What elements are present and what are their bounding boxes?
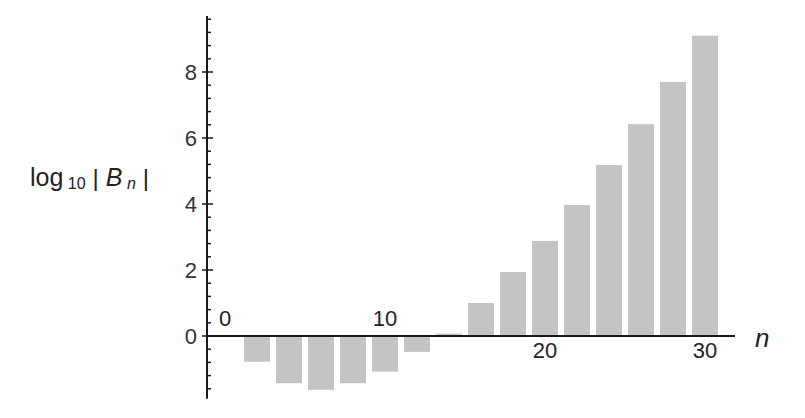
y-label-abs-right: |	[143, 164, 149, 191]
y-label-abs-left: |	[93, 164, 99, 191]
y-tick-label: 8	[185, 60, 197, 85]
x-tick-label: 10	[373, 306, 397, 331]
bar-n-20	[532, 241, 558, 336]
bar-n-10	[372, 337, 398, 372]
bar-n-2	[244, 337, 270, 362]
bar-n-18	[500, 272, 526, 336]
bar-n-26	[628, 124, 654, 336]
bar-n-12	[404, 337, 430, 352]
y-label-base: 10	[63, 175, 85, 192]
y-axis-label: log 10 | B n |	[30, 163, 149, 193]
y-label-log: log	[30, 163, 63, 191]
bar-n-24	[596, 165, 622, 336]
x-axis-label: n	[755, 323, 769, 353]
x-tick-label: 0	[219, 306, 231, 331]
y-tick-label: 0	[185, 324, 197, 349]
bar-n-6	[308, 337, 334, 390]
bar-n-8	[340, 337, 366, 383]
bar-chart: 024680102030 n	[0, 0, 805, 418]
y-label-n: n	[122, 175, 135, 192]
bar-n-4	[276, 337, 302, 383]
y-tick-label: 2	[185, 258, 197, 283]
bar-n-28	[660, 82, 686, 336]
y-tick-label: 6	[185, 126, 197, 151]
y-tick-label: 4	[185, 192, 197, 217]
bar-n-16	[468, 303, 494, 336]
x-tick-label: 20	[533, 338, 557, 363]
y-label-B: B	[106, 163, 123, 191]
bar-n-30	[692, 36, 718, 336]
bar-n-22	[564, 205, 590, 336]
x-tick-label: 30	[693, 338, 717, 363]
